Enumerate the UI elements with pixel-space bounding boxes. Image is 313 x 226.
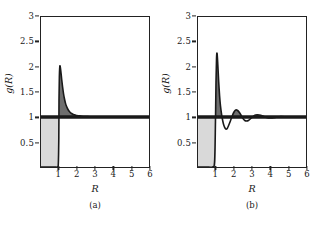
y-tick-label: 2.5 (177, 37, 191, 46)
y-tick-label: 1.5 (20, 88, 34, 97)
y-tick-mark (192, 15, 196, 16)
y-tick-label: 3 (185, 12, 191, 21)
x-tick-label: 4 (111, 170, 116, 179)
y-tick-label: 1 (185, 113, 191, 122)
y-tick-label: 2 (28, 62, 34, 71)
x-axis-title-b: R (197, 183, 307, 194)
plot-svg-b (198, 17, 306, 167)
x-tick-label: 5 (286, 170, 291, 179)
figure-radial-distribution-functions: g(R) 0.511.522.53 123456 R (a) g(R) 0.51… (0, 0, 313, 226)
y-tick-label: 0.5 (20, 138, 34, 147)
x-tick-label: 1 (56, 170, 61, 179)
x-tick-label: 6 (147, 170, 152, 179)
y-tick-label: 2.5 (20, 37, 34, 46)
panel-caption-a: (a) (40, 200, 150, 210)
x-tick-label: 6 (304, 170, 309, 179)
y-tick-mark (192, 142, 196, 143)
x-tick-label: 3 (92, 170, 97, 179)
x-tick-mark (288, 166, 289, 170)
x-axis-b: 123456 (197, 170, 307, 184)
x-tick-label: 1 (213, 170, 218, 179)
y-tick-label: 1 (28, 113, 34, 122)
x-tick-mark (113, 166, 114, 170)
y-tick-mark (35, 142, 39, 143)
panel-caption-b: (b) (197, 200, 307, 210)
y-tick-mark (35, 117, 39, 118)
x-tick-mark (233, 166, 234, 170)
y-tick-mark (35, 91, 39, 92)
y-tick-mark (35, 66, 39, 67)
y-axis-a: 0.511.522.53 (0, 16, 38, 168)
panel-b: g(R) 0.511.522.53 123456 R (b) (157, 0, 313, 226)
plot-svg-a (41, 17, 149, 167)
x-tick-label: 4 (268, 170, 273, 179)
x-tick-mark (215, 166, 216, 170)
x-axis-title-a: R (40, 183, 150, 194)
y-tick-mark (35, 15, 39, 16)
plot-area-a (40, 16, 150, 168)
excluded-volume-shaded-region (41, 117, 59, 167)
y-tick-mark (192, 41, 196, 42)
excluded-volume-shaded-region (198, 117, 216, 167)
x-tick-label: 2 (74, 170, 79, 179)
y-axis-b: 0.511.522.53 (157, 16, 195, 168)
x-tick-label: 2 (231, 170, 236, 179)
x-tick-label: 3 (249, 170, 254, 179)
x-tick-mark (131, 166, 132, 170)
panel-a: g(R) 0.511.522.53 123456 R (a) (0, 0, 156, 226)
y-tick-label: 2 (185, 62, 191, 71)
x-tick-mark (58, 166, 59, 170)
x-tick-mark (270, 166, 271, 170)
x-tick-mark (149, 166, 150, 170)
y-tick-label: 1.5 (177, 88, 191, 97)
x-tick-mark (94, 166, 95, 170)
x-tick-mark (76, 166, 77, 170)
x-tick-mark (306, 166, 307, 170)
y-tick-mark (35, 41, 39, 42)
curve-g-of-R (198, 53, 306, 167)
y-tick-label: 3 (28, 12, 34, 21)
x-tick-label: 5 (129, 170, 134, 179)
plot-area-b (197, 16, 307, 168)
y-tick-mark (192, 66, 196, 67)
x-axis-a: 123456 (40, 170, 150, 184)
y-tick-mark (192, 117, 196, 118)
y-tick-label: 0.5 (177, 138, 191, 147)
y-tick-mark (192, 91, 196, 92)
x-tick-mark (251, 166, 252, 170)
